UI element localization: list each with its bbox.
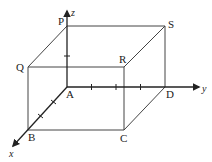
box-edges xyxy=(28,26,165,130)
label-A: A xyxy=(66,88,74,100)
edge-SR xyxy=(124,26,165,67)
x-axis xyxy=(13,87,67,146)
label-B: B xyxy=(28,131,35,143)
axes xyxy=(13,11,199,146)
cuboid-diagram: P Q R S A D B C z y x xyxy=(0,0,212,162)
label-S: S xyxy=(168,18,174,30)
edge-PQ xyxy=(28,26,67,67)
label-C: C xyxy=(120,132,127,144)
label-y-axis: y xyxy=(201,83,207,94)
label-Q: Q xyxy=(16,61,24,73)
label-z-axis: z xyxy=(70,7,75,18)
label-D: D xyxy=(166,88,174,100)
axis-labels: z y x xyxy=(8,7,207,159)
label-x-axis: x xyxy=(8,148,14,159)
vertex-labels: P Q R S A D B C xyxy=(16,15,174,144)
label-P: P xyxy=(58,15,64,27)
label-R: R xyxy=(119,53,127,65)
edge-CD xyxy=(124,87,165,130)
